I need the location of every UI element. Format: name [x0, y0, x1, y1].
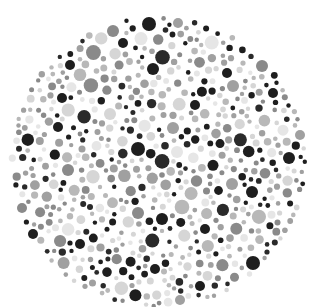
- dot: [27, 95, 35, 103]
- dot: [75, 239, 85, 249]
- dot: [49, 107, 54, 112]
- dot: [184, 26, 189, 31]
- dot: [28, 108, 32, 112]
- dot: [238, 173, 246, 181]
- dot: [207, 141, 213, 147]
- dot: [171, 146, 183, 158]
- dot: [175, 200, 190, 215]
- dot: [130, 110, 135, 115]
- dot: [94, 68, 100, 74]
- dot: [273, 100, 278, 105]
- dot: [109, 218, 116, 225]
- dot: [102, 86, 111, 95]
- dot: [237, 247, 242, 252]
- dot: [157, 128, 161, 132]
- dot: [107, 25, 119, 37]
- dot: [274, 121, 279, 126]
- dot: [53, 122, 63, 132]
- dot: [240, 207, 246, 213]
- dot: [169, 112, 176, 119]
- dot: [129, 283, 134, 288]
- dot: [269, 179, 274, 184]
- dot: [215, 122, 220, 127]
- dot: [141, 229, 146, 234]
- dot: [87, 204, 93, 210]
- dot: [22, 184, 27, 189]
- dot: [218, 224, 224, 230]
- dot: [224, 165, 228, 169]
- dot: [108, 149, 114, 155]
- dot: [58, 188, 63, 193]
- dot: [286, 103, 290, 107]
- dot: [250, 134, 255, 139]
- dot: [170, 275, 176, 281]
- dot: [104, 168, 108, 172]
- dot: [65, 75, 70, 80]
- dot: [224, 288, 229, 293]
- dot: [204, 124, 210, 130]
- dot: [95, 32, 107, 44]
- dot: [29, 87, 34, 92]
- dot: [231, 166, 237, 172]
- dot: [35, 207, 45, 217]
- dot: [237, 67, 243, 73]
- dot: [72, 278, 77, 283]
- dot: [282, 227, 288, 233]
- dot: [194, 57, 205, 68]
- dot: [187, 36, 193, 42]
- dot: [128, 85, 132, 89]
- dot: [110, 165, 118, 173]
- dot: [256, 178, 262, 184]
- dot: [66, 134, 71, 139]
- dot: [96, 243, 104, 251]
- dot: [274, 168, 279, 173]
- dot: [76, 230, 81, 235]
- dot: [197, 87, 207, 97]
- dot: [208, 54, 216, 62]
- dot: [98, 260, 103, 265]
- dot: [92, 106, 98, 112]
- dot: [117, 236, 122, 241]
- dot: [149, 115, 155, 121]
- dot: [51, 100, 56, 105]
- dot: [17, 203, 27, 213]
- dot: [177, 52, 182, 57]
- dot: [41, 113, 46, 118]
- dot: [72, 198, 77, 203]
- dot: [136, 265, 141, 270]
- dot: [82, 284, 87, 289]
- dot: [173, 18, 183, 28]
- dot: [38, 157, 43, 162]
- dot: [242, 85, 247, 90]
- dot: [146, 132, 155, 141]
- dot: [80, 39, 85, 44]
- dot: [17, 117, 21, 121]
- dot: [156, 75, 161, 80]
- dot: [58, 194, 64, 200]
- dot: [166, 87, 171, 92]
- dot: [115, 61, 124, 70]
- dot: [129, 95, 135, 101]
- dot: [148, 89, 154, 95]
- dot: [36, 124, 41, 129]
- dot: [228, 55, 234, 61]
- dot: [136, 279, 141, 284]
- dot: [51, 172, 56, 177]
- dot: [191, 169, 195, 173]
- dot: [170, 32, 176, 38]
- dot: [83, 229, 89, 235]
- dot: [295, 117, 299, 121]
- dot: [246, 107, 250, 111]
- dot: [222, 68, 232, 78]
- dot: [117, 160, 122, 165]
- dot: [62, 223, 75, 236]
- dot: [195, 239, 199, 243]
- dot: [96, 204, 105, 213]
- dot: [212, 282, 218, 288]
- dot: [190, 221, 195, 226]
- dot: [190, 100, 200, 110]
- dot: [224, 146, 229, 151]
- dot: [106, 124, 113, 131]
- dot: [155, 50, 170, 65]
- dot: [183, 41, 187, 45]
